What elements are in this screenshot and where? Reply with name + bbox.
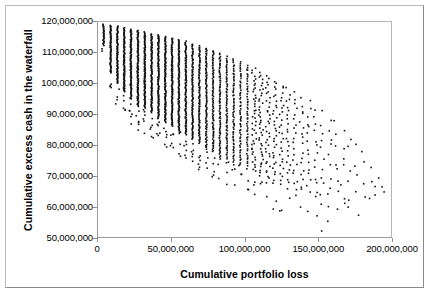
plot-area (97, 21, 392, 238)
x-tick-mark (392, 238, 393, 242)
scatter-points-canvas (98, 22, 392, 238)
x-axis-title: Cumulative portfolio loss (97, 268, 392, 280)
x-tick-label: 200,000,000 (337, 243, 433, 254)
x-tick-mark (318, 238, 319, 242)
y-axis-title: Cumulative excess cash in the waterfall (22, 10, 34, 250)
x-tick-mark (97, 238, 98, 242)
chart-container: 50,000,00060,000,00070,000,00080,000,000… (0, 0, 433, 296)
x-tick-mark (171, 238, 172, 242)
x-tick-mark (245, 238, 246, 242)
